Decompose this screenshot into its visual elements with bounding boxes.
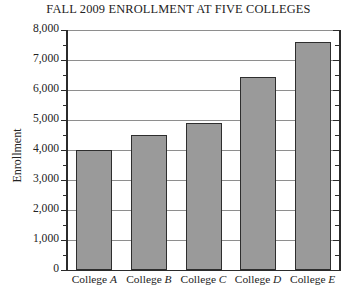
- bar-d[interactable]: [240, 77, 276, 271]
- y-axis-tick-label: 6,000: [3, 82, 59, 95]
- y-axis-tick-right: [333, 60, 339, 61]
- category-letter: E: [328, 273, 335, 285]
- y-axis-minor-tick: [63, 255, 67, 256]
- x-axis-tick-label-a: College A: [67, 273, 122, 285]
- category-prefix: College: [126, 273, 164, 285]
- x-axis-tick-label-c: College C: [176, 273, 231, 285]
- y-axis-tick: [61, 120, 67, 121]
- y-axis-tick-label: 1,000: [3, 232, 59, 245]
- y-axis-tick-label: 2,000: [3, 202, 59, 215]
- y-axis-minor-tick-right: [335, 105, 339, 106]
- y-axis-minor-tick: [63, 75, 67, 76]
- x-axis-tick-label-b: College B: [122, 273, 177, 285]
- category-letter: B: [165, 273, 172, 285]
- y-axis-tick: [61, 240, 67, 241]
- y-axis-tick-right: [333, 150, 339, 151]
- y-axis-tick-right: [333, 120, 339, 121]
- y-axis-tick-label: 7,000: [3, 52, 59, 65]
- category-letter: D: [273, 273, 281, 285]
- y-axis-tick: [61, 60, 67, 61]
- y-axis-tick: [61, 270, 67, 271]
- category-prefix: College: [72, 273, 110, 285]
- y-axis-minor-tick: [63, 45, 67, 46]
- y-axis-minor-tick: [63, 135, 67, 136]
- y-axis-tick: [61, 150, 67, 151]
- y-axis-minor-tick-right: [335, 165, 339, 166]
- y-axis-minor-tick-right: [335, 255, 339, 256]
- y-axis-tick-label: 3,000: [3, 172, 59, 185]
- x-axis-line: [66, 270, 341, 271]
- y-axis-tick-right: [333, 30, 339, 31]
- category-prefix: College: [181, 273, 219, 285]
- y-axis-tick-right: [333, 240, 339, 241]
- y-axis-tick: [61, 180, 67, 181]
- y-axis-tick: [61, 90, 67, 91]
- x-axis-tick-label-e: College E: [285, 273, 340, 285]
- category-prefix: College: [290, 273, 328, 285]
- bar-b[interactable]: [131, 135, 167, 270]
- plot-area: [67, 30, 340, 270]
- y-axis-minor-tick-right: [335, 135, 339, 136]
- category-letter: A: [110, 273, 117, 285]
- bar-c[interactable]: [186, 123, 222, 270]
- y-axis-minor-tick: [63, 225, 67, 226]
- y-axis-tick-label: 8,000: [3, 22, 59, 35]
- y-axis-minor-tick-right: [335, 225, 339, 226]
- category-letter: C: [219, 273, 227, 285]
- y-axis-minor-tick: [63, 195, 67, 196]
- plot-right-spine: [339, 30, 341, 271]
- x-axis-tick-label-d: College D: [231, 273, 286, 285]
- y-axis-tick-label: 0: [3, 262, 59, 275]
- y-axis-tick-label: 5,000: [3, 112, 59, 125]
- y-axis-minor-tick-right: [335, 45, 339, 46]
- category-prefix: College: [235, 273, 273, 285]
- y-axis-minor-tick: [63, 105, 67, 106]
- bar-e[interactable]: [295, 42, 331, 270]
- y-axis-tick-right: [333, 90, 339, 91]
- y-axis-minor-tick: [63, 165, 67, 166]
- bar-a[interactable]: [76, 150, 112, 270]
- bar-chart-figure: FALL 2009 ENROLLMENT AT FIVE COLLEGES En…: [0, 0, 357, 299]
- y-axis-minor-tick-right: [335, 75, 339, 76]
- y-axis-tick-right: [333, 180, 339, 181]
- gridline: [67, 30, 340, 31]
- chart-title: FALL 2009 ENROLLMENT AT FIVE COLLEGES: [0, 2, 357, 17]
- y-axis-tick: [61, 30, 67, 31]
- y-axis-minor-tick-right: [335, 195, 339, 196]
- y-axis-tick-right: [333, 270, 339, 271]
- y-axis-tick-right: [333, 210, 339, 211]
- y-axis-tick: [61, 210, 67, 211]
- y-axis-tick-label: 4,000: [3, 142, 59, 155]
